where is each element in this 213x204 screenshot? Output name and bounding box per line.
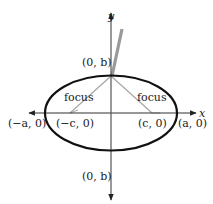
rod	[112, 29, 122, 76]
top-vertex-label: (0, b)	[82, 56, 112, 69]
left-focus-text: focus	[64, 91, 94, 104]
bottom-vertex-label: (0, b)	[82, 170, 112, 183]
ellipse-diagram: y x (0, b) (0, b) (−a, 0) (a, 0) (−c, 0)…	[0, 0, 213, 204]
y-axis-label: y	[107, 10, 115, 23]
left-vertex-label: (−a, 0)	[8, 117, 46, 130]
right-focus-text: focus	[137, 91, 167, 104]
right-vertex-label: (a, 0)	[178, 117, 207, 130]
right-focus-point-label: (c, 0)	[138, 117, 167, 130]
left-focus-point-label: (−c, 0)	[56, 117, 94, 130]
